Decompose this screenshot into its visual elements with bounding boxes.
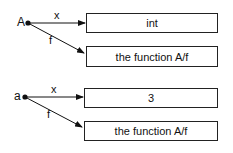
edge-label-f: f xyxy=(49,35,52,46)
edge-label-x: x xyxy=(51,84,57,95)
object-label-A: A xyxy=(17,17,25,28)
edge-label-x: x xyxy=(54,10,60,21)
edge-label-f: f xyxy=(47,109,50,120)
value-box-int: int xyxy=(86,13,218,33)
value-box-3: 3 xyxy=(84,88,218,108)
object-label-a: a xyxy=(14,91,21,102)
value-box-function: the function A/f xyxy=(84,121,218,141)
value-box-function: the function A/f xyxy=(86,46,218,67)
